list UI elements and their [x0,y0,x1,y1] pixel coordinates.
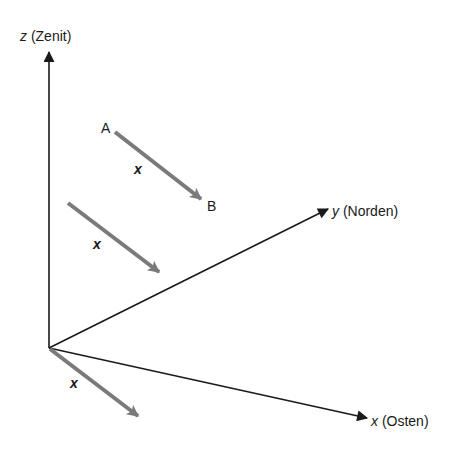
vector-middle: x [68,203,159,272]
vector-ab-arrow [115,132,201,199]
vector-origin-name: x [69,375,79,391]
y-axis: y (Norden) [49,203,398,348]
point-a-label: A [101,120,111,136]
y-axis-label: y (Norden) [331,203,398,219]
y-axis-line [49,209,328,348]
point-b-label: B [207,198,216,214]
x-axis: x (Osten) [49,348,429,429]
coordinate-diagram: z (Zenit) y (Norden) x (Osten) A B x x x [0,0,465,458]
vector-origin-arrow [50,349,138,416]
vector-origin: x [50,349,138,416]
vector-middle-arrow [68,203,159,272]
z-axis: z (Zenit) [19,28,71,348]
vector-ab-name: x [133,161,143,177]
x-axis-label: x (Osten) [370,413,429,429]
z-axis-label: z (Zenit) [19,28,71,44]
vector-middle-name: x [92,236,102,252]
vector-ab: A B x [101,120,216,214]
